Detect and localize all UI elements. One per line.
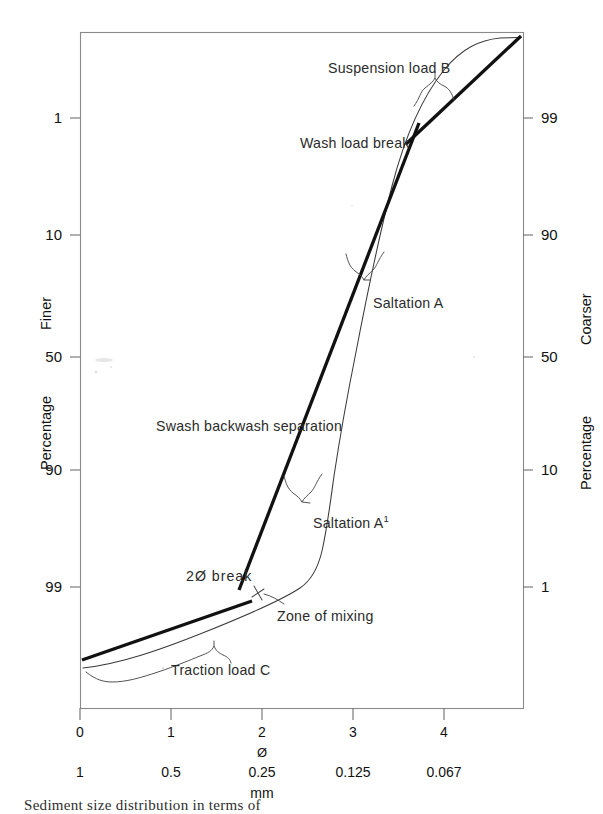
x-axis-unit-phi: Ø	[247, 745, 277, 760]
right-tick-90: 90	[541, 226, 558, 243]
right-axis-title-percentage: Percentage	[578, 416, 594, 490]
figure-caption: Sediment size distribution in terms of	[24, 797, 261, 814]
annotation-phi-break: 2Ø break	[186, 568, 252, 584]
series-measured-curve	[83, 38, 520, 669]
x-mm-tick-1: 1	[65, 764, 95, 780]
left-tick-1: 1	[38, 109, 62, 126]
right-axis-title-coarser: Coarser	[578, 293, 594, 345]
left-axis-title-finer: Finer	[38, 297, 54, 330]
left-tick-99: 99	[30, 578, 62, 595]
annotation-saltation-a1-superscript: 1	[384, 513, 389, 524]
annotation-wash-load-break: Wash load break	[300, 135, 410, 151]
left-tick-10: 10	[30, 226, 62, 243]
left-axis-title-percentage: Percentage	[38, 396, 54, 470]
right-tick-99: 99	[541, 109, 558, 126]
paper-artifacts	[95, 205, 476, 669]
x-axis-ticks	[80, 708, 444, 720]
annotation-traction-load: Traction load C	[171, 662, 270, 678]
right-tick-50: 50	[541, 348, 558, 365]
right-tick-10: 10	[541, 461, 558, 478]
brace-suspension-load	[414, 78, 454, 106]
right-axis-ticks	[523, 118, 533, 587]
x-phi-tick-0: 0	[65, 724, 95, 740]
x-phi-tick-1: 1	[156, 724, 186, 740]
brace-saltation-a1	[284, 474, 322, 502]
annotation-swash-backwash-separation: Swash backwash separation	[156, 418, 342, 434]
x-phi-tick-2: 2	[247, 724, 277, 740]
annotation-zone-of-mixing: Zone of mixing	[277, 608, 374, 624]
series-population-fit	[82, 36, 521, 660]
x-mm-tick-0-25: 0.25	[236, 764, 288, 780]
annotation-saltation-a: Saltation A	[373, 295, 444, 311]
annotation-saltation-a1: Saltation A1	[313, 513, 389, 531]
left-axis-ticks	[70, 118, 80, 587]
right-tick-1: 1	[541, 578, 549, 595]
leader-saltation-a1	[302, 502, 310, 503]
x-mm-tick-0-067: 0.067	[414, 764, 474, 780]
segment-traction-load	[82, 601, 252, 660]
left-tick-50: 50	[30, 348, 62, 365]
marker-zone-of-mixing	[252, 586, 264, 600]
x-mm-tick-0-5: 0.5	[148, 764, 194, 780]
annotation-saltation-a1-base: Saltation A	[313, 515, 384, 531]
annotation-suspension-load: Suspension load B	[328, 60, 451, 76]
x-phi-tick-3: 3	[338, 724, 368, 740]
x-mm-tick-0-125: 0.125	[323, 764, 383, 780]
x-phi-tick-4: 4	[429, 724, 459, 740]
